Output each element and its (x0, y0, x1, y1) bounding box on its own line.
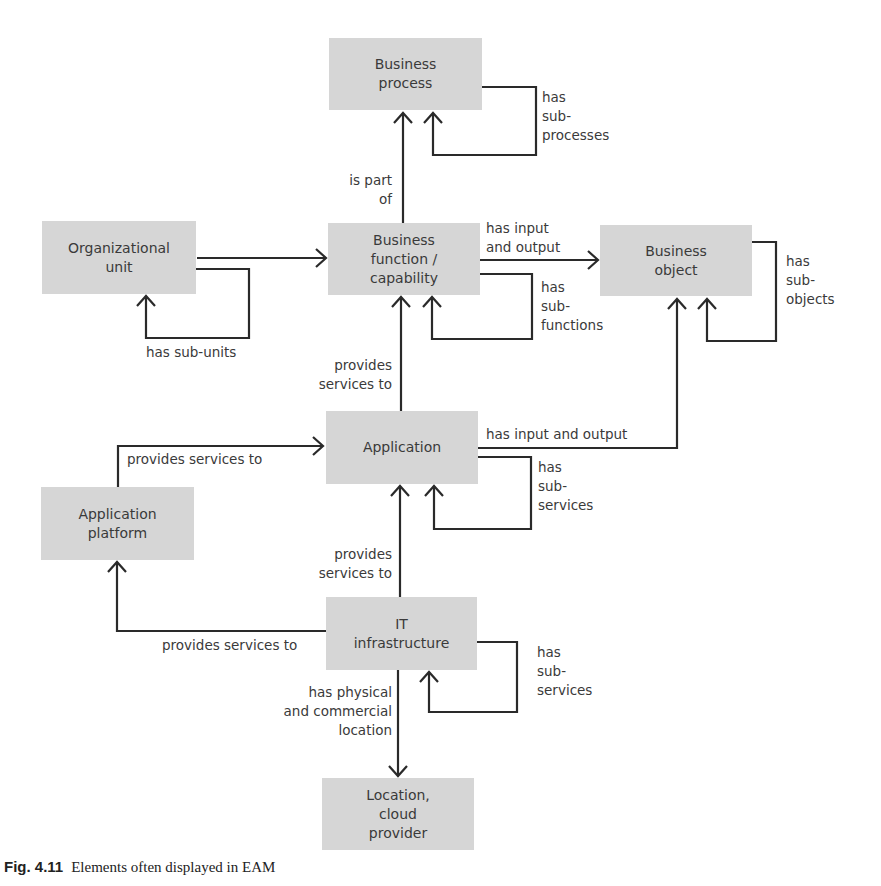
label-app-io: has input and output (486, 425, 627, 444)
label-it-location: has physical and commercial location (250, 683, 392, 740)
label-it-provides-app: provides services to (300, 545, 392, 583)
label-bf-io: has input and output (486, 219, 560, 257)
node-label: Organizational unit (68, 239, 170, 277)
label-bp-sub: has sub- processes (542, 88, 609, 145)
node-business-object: Business object (600, 225, 752, 296)
node-label: Business function / capability (370, 231, 438, 288)
node-label: IT infrastructure (354, 615, 450, 653)
node-label: Business process (375, 55, 437, 93)
node-organizational-unit: Organizational unit (42, 221, 196, 294)
node-location: Location, cloud provider (322, 778, 474, 850)
edge-it-to-plat (117, 563, 326, 631)
node-business-function: Business function / capability (328, 223, 480, 295)
node-label: Application (363, 438, 441, 457)
node-label: Application platform (78, 505, 156, 543)
label-bo-sub: has sub- objects (786, 252, 835, 309)
diagram-canvas: Business process Organizational unit Bus… (0, 0, 881, 886)
figure-caption: Fig. 4.11Elements often displayed in EAM (4, 858, 275, 876)
caption-text: Elements often displayed in EAM (71, 859, 275, 875)
node-business-process: Business process (329, 38, 482, 110)
node-application-platform: Application platform (41, 487, 194, 560)
label-it-sub: has sub- services (537, 643, 592, 700)
label-is-part-of: is part of (330, 171, 392, 209)
label-app-provides-bf: provides services to (300, 356, 392, 394)
caption-label: Fig. 4.11 (4, 858, 63, 875)
node-label: Location, cloud provider (366, 786, 430, 843)
node-label: Business object (645, 242, 707, 280)
label-app-sub: has sub- services (538, 458, 593, 515)
label-bf-sub: has sub- functions (541, 278, 603, 335)
node-application: Application (326, 411, 478, 484)
label-ou-sub: has sub-units (146, 343, 236, 362)
label-it-provides-plat: provides services to (162, 636, 297, 655)
label-plat-provides-app: provides services to (127, 450, 262, 469)
node-it-infrastructure: IT infrastructure (326, 597, 477, 670)
